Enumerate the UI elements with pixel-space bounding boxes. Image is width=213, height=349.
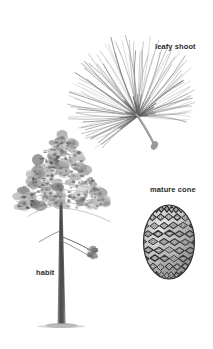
habit-figure [8,128,120,333]
label-leafy-shoot: leafy shoot [155,42,196,51]
label-habit: habit [36,268,54,277]
illustration-plate: leafy shoot [0,0,213,349]
mature-cone-drawing [136,197,202,285]
mature-cone-figure [136,197,202,285]
shoot-stem-icon [136,114,159,151]
tree-trunk-icon [39,205,92,324]
label-mature-cone: mature cone [150,185,196,194]
habit-drawing [8,128,120,333]
